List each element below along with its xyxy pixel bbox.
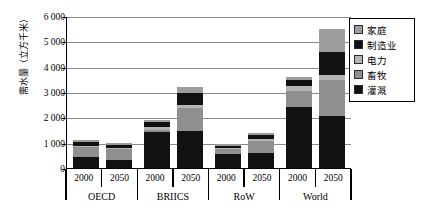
plot-area [66, 17, 351, 169]
x-tick-label-year: 2000 [209, 173, 245, 183]
stacked-bar[interactable] [144, 120, 170, 168]
bar-segment-4 [319, 29, 345, 51]
legend-swatch-icon [354, 40, 363, 49]
legend-item[interactable]: 制造业 [354, 38, 411, 51]
bar-segment-1 [73, 147, 99, 157]
stacked-bar[interactable] [215, 144, 241, 168]
chart-root: 需水量（立方千米） 01 0002 0003 0004 0005 0006 00… [0, 0, 422, 218]
x-axis-tick [243, 169, 244, 187]
x-tick-label-year: 2000 [137, 173, 173, 183]
x-axis-group-divider-lower [208, 187, 209, 200]
bar-segment-0 [177, 131, 203, 168]
bar-segment-0 [144, 132, 170, 168]
legend-item-label: 电力 [367, 53, 387, 67]
x-axis: 20002050200020502000205020002050 OECDBRI… [66, 169, 351, 218]
legend-item-label: 家庭 [367, 23, 387, 37]
x-axis-group-divider [208, 169, 209, 187]
y-tick-label: 1 000 [19, 139, 65, 149]
bar-segment-3 [177, 93, 203, 104]
x-axis-group-divider-lower [350, 187, 351, 200]
legend-item[interactable]: 家庭 [354, 23, 411, 36]
x-axis-group-divider [350, 169, 351, 187]
x-tick-label-year: 2050 [315, 173, 351, 183]
legend-swatch-icon [354, 55, 363, 64]
bar-segment-3 [286, 80, 312, 87]
legend-item[interactable]: 电力 [354, 53, 411, 66]
stacked-bar[interactable] [286, 77, 312, 168]
legend-swatch-icon [354, 85, 363, 94]
legend-item[interactable]: 灌溉 [354, 83, 411, 96]
x-tick-label-year: 2050 [102, 173, 138, 183]
bar-segment-0 [248, 153, 274, 168]
x-axis-tick [101, 169, 102, 187]
bar-segment-0 [286, 107, 312, 168]
stacked-bar[interactable] [319, 29, 345, 168]
bar-segment-0 [106, 160, 132, 168]
x-group-label: OECD [66, 191, 137, 202]
stacked-bar[interactable] [73, 140, 99, 168]
bar-segment-1 [248, 141, 274, 153]
bar-group [209, 17, 280, 168]
legend: 家庭制造业电力畜牧灌溉 [349, 18, 415, 102]
legend-swatch-icon [354, 25, 363, 34]
stacked-bar[interactable] [248, 133, 274, 168]
bar-segment-1 [286, 91, 312, 107]
x-tick-label-year: 2000 [66, 173, 102, 183]
bar-segment-1 [319, 80, 345, 116]
stacked-bar[interactable] [177, 87, 203, 168]
x-axis-group-divider [137, 169, 138, 187]
x-axis-group-divider [65, 169, 66, 187]
stacked-bar[interactable] [106, 143, 132, 168]
bar-segment-0 [215, 154, 241, 168]
y-tick-label: 3 000 [19, 88, 65, 98]
x-axis-group-divider-lower [279, 187, 280, 200]
legend-item-label: 灌溉 [367, 83, 387, 97]
x-axis-group-divider-lower [137, 187, 138, 200]
x-group-label: BRIICS [137, 191, 208, 202]
y-tick-label: 4 000 [19, 63, 65, 73]
x-tick-label-year: 2050 [244, 173, 280, 183]
bar-group [67, 17, 138, 168]
x-axis-group-divider [279, 169, 280, 187]
bar-group [280, 17, 351, 168]
x-tick-label-year: 2000 [280, 173, 316, 183]
legend-item-label: 畜牧 [367, 68, 387, 82]
bar-segment-1 [177, 108, 203, 131]
legend-item[interactable]: 畜牧 [354, 68, 411, 81]
x-group-label: RoW [209, 191, 280, 202]
legend-swatch-icon [354, 70, 363, 79]
bar-segment-0 [73, 157, 99, 168]
x-tick-label-year: 2050 [173, 173, 209, 183]
x-axis-tick [172, 169, 173, 187]
y-tick-label: 6 000 [19, 12, 65, 22]
bar-group [138, 17, 209, 168]
y-tick-label: 0 [19, 164, 65, 174]
y-tick-label: 5 000 [19, 37, 65, 47]
bar-segment-0 [319, 116, 345, 168]
bar-segment-3 [319, 52, 345, 75]
x-group-label: World [280, 191, 351, 202]
bar-series-container [67, 17, 351, 168]
legend-item-label: 制造业 [367, 38, 397, 52]
x-axis-group-divider-lower [65, 187, 66, 200]
x-axis-tick [315, 169, 316, 187]
bar-segment-1 [106, 149, 132, 160]
y-tick-label: 2 000 [19, 113, 65, 123]
